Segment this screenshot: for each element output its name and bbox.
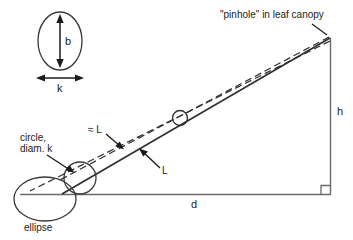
label-circle-line1: circle, bbox=[20, 132, 46, 144]
inset-group bbox=[36, 12, 84, 82]
leader-arrow-group bbox=[47, 24, 327, 173]
inset-horizontal-arrowhead-right bbox=[75, 74, 84, 81]
label-height-h: h bbox=[337, 106, 343, 117]
leader-line-title bbox=[312, 24, 327, 35]
inset-vertical-arrowhead-top bbox=[56, 14, 63, 23]
label-L: L bbox=[162, 165, 168, 176]
diagram-graphics bbox=[0, 0, 353, 240]
triangle-group bbox=[20, 38, 331, 195]
title-pinhole-canopy: "pinhole" in leaf canopy bbox=[220, 9, 324, 20]
upper-bounding-ray-dashed bbox=[58, 37, 329, 181]
inset-vertical-arrowhead-bottom bbox=[56, 59, 63, 68]
inset-horizontal-arrowhead-left bbox=[36, 74, 45, 81]
label-distance-d: d bbox=[191, 199, 197, 210]
label-circle-line2: diam. k bbox=[20, 143, 52, 155]
lower-bounding-ray-dashed bbox=[30, 41, 330, 191]
right-angle-marker bbox=[321, 186, 331, 195]
midway-circle bbox=[173, 111, 188, 126]
ray-group bbox=[30, 37, 330, 194]
ground-ellipse bbox=[14, 177, 76, 221]
leader-line-L bbox=[143, 152, 160, 168]
label-inset-b: b bbox=[65, 36, 71, 47]
diagram-canvas: "pinhole" in leaf canopy h d ≈ L L circl… bbox=[0, 0, 353, 240]
label-inset-k: k bbox=[57, 83, 63, 94]
leader-line-circle-label bbox=[47, 155, 70, 170]
label-ellipse: ellipse bbox=[24, 222, 52, 233]
label-approx-L: ≈ L bbox=[88, 124, 102, 135]
